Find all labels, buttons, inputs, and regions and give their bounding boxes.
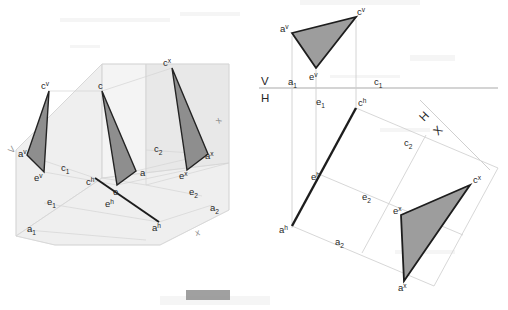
svg-text:a2: a2: [335, 236, 344, 249]
svg-text:ax: ax: [398, 282, 407, 294]
label-r-c1-sub: 1: [379, 82, 383, 89]
label-c1-sub: 1: [66, 168, 70, 175]
svg-text:cx: cx: [473, 174, 482, 186]
svg-text:e1: e1: [316, 96, 325, 109]
right-grid-labels: a1 c1 e1 c2 e2 a2: [288, 76, 413, 249]
label-r-ch-sup: h: [363, 97, 367, 104]
left-diagram: V x x cv c cx av ev a e ax ex ch ah c1 e…: [6, 57, 229, 246]
label-r-e1-sub: 1: [321, 102, 325, 109]
svg-text:ah: ah: [279, 224, 288, 236]
bottom-black-bar: [186, 290, 230, 300]
label-r-cv-sup: v: [362, 6, 366, 13]
label-a1-sub: 1: [32, 229, 36, 236]
svg-text:eh: eh: [311, 171, 320, 183]
label-e1-sub: 1: [52, 202, 56, 209]
label-r-ah-sup: h: [284, 224, 288, 231]
label-r-av-sup: v: [285, 23, 289, 30]
svg-text:av: av: [280, 23, 289, 35]
label-r-e2-sub: 2: [367, 197, 371, 204]
svg-text:ev: ev: [309, 71, 318, 83]
label-r-ev-sup: v: [314, 71, 318, 78]
label-r-ax-sup: x: [403, 282, 407, 289]
triangle-front-view: [292, 17, 356, 68]
fold-line-hx: [420, 100, 490, 170]
label-e-base: e: [113, 186, 118, 197]
label-cx-sup: x: [168, 57, 172, 64]
triangle-aux-view: [401, 185, 470, 281]
label-a-base: a: [140, 167, 146, 178]
left-plane-h-label: x: [194, 227, 201, 238]
geometry-figure: V x x cv c cx av ev a e ax ex ch ah c1 e…: [0, 0, 508, 310]
svg-text:a1: a1: [288, 76, 297, 89]
svg-text:a: a: [140, 167, 146, 178]
figure-canvas: V x x cv c cx av ev a e ax ex ch ah c1 e…: [0, 0, 508, 310]
svg-text:cv: cv: [41, 80, 50, 92]
svg-text:ch: ch: [358, 97, 367, 109]
svg-text:e2: e2: [362, 191, 371, 204]
svg-text:c: c: [98, 80, 103, 91]
label-cv-sup: v: [46, 80, 50, 87]
label-r-eh-sup: h: [316, 171, 320, 178]
label-ah-sup: h: [157, 222, 161, 229]
label-plane-h-rotated: H: [417, 109, 431, 123]
right-diagram: V H H X av cv ev ch ah eh cx ex ax a1 c1…: [259, 6, 498, 294]
label-c-base: c: [98, 80, 103, 91]
label-a2-sub: 2: [215, 208, 219, 215]
label-r-a2-sub: 2: [340, 242, 344, 249]
svg-text:c2: c2: [404, 137, 413, 150]
label-r-cx-sup: x: [478, 174, 482, 181]
label-r-ex-sup: x: [398, 205, 402, 212]
label-e2-sub: 2: [194, 192, 198, 199]
label-plane-x-rotated: X: [431, 123, 445, 137]
aux-projectors: [292, 108, 498, 286]
svg-text:cv: cv: [357, 6, 366, 18]
label-plane-h: H: [261, 92, 269, 104]
label-plane-v: V: [261, 75, 269, 87]
svg-text:e: e: [113, 186, 118, 197]
label-r-a1-sub: 1: [293, 82, 297, 89]
label-r-c2-sub: 2: [409, 143, 413, 150]
label-eh-sup: h: [110, 198, 114, 205]
label-c2-sub: 2: [159, 149, 163, 156]
label-ch-sup: h: [91, 176, 95, 183]
line-edge-view-ch-ah: [292, 108, 356, 226]
